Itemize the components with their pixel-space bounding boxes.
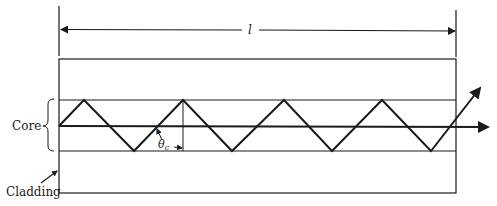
length-label: l bbox=[248, 23, 252, 37]
theta-subscript: c bbox=[165, 143, 170, 152]
fiber-optic-diagram: l θc Core Cladding bbox=[0, 0, 497, 206]
cladding-label: Cladding bbox=[6, 185, 61, 199]
fiber-axis-arrow bbox=[59, 126, 488, 127]
angle-pointer-right bbox=[174, 147, 182, 148]
length-arrow-left bbox=[61, 30, 242, 31]
cladding-pointer-arrow bbox=[41, 171, 57, 183]
length-arrow-right bbox=[259, 30, 455, 31]
critical-angle-label: θc bbox=[158, 138, 170, 152]
core-label: Core bbox=[12, 119, 41, 133]
cladding-label-group: Cladding bbox=[6, 171, 61, 199]
core-label-group: Core bbox=[12, 99, 54, 151]
length-dimension: l bbox=[59, 6, 456, 57]
light-ray-path bbox=[59, 88, 480, 151]
core-brace-icon bbox=[43, 99, 54, 151]
